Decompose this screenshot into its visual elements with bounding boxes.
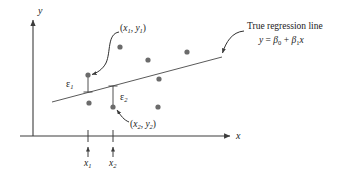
leader-curve-point1 <box>92 32 119 75</box>
data-point <box>155 104 160 109</box>
data-point <box>156 76 161 81</box>
regression-diagram: y x (x1, y1) (x2, y2) ε1 ε2 True regress… <box>0 0 341 171</box>
leader-curve-regression-caption <box>223 31 245 53</box>
x-tick-1-subscript: 1 <box>88 162 91 169</box>
x-tick-label-1: x1 <box>84 159 91 169</box>
point2-close-paren: ) <box>153 119 156 129</box>
residual-segment-epsilon-2 <box>109 86 118 107</box>
epsilon-2-label: ε2 <box>120 92 127 103</box>
data-point <box>184 49 189 54</box>
data-point <box>117 44 122 49</box>
equation-y: y <box>259 35 263 45</box>
equation-equals: = <box>266 35 271 45</box>
data-point <box>86 100 91 105</box>
epsilon-1-label: ε1 <box>66 79 73 90</box>
data-point <box>85 72 90 77</box>
data-points <box>85 44 189 109</box>
point1-close-paren: ) <box>143 23 146 33</box>
point-label-x2-y2: (x2, y2) <box>130 120 156 130</box>
x-tick-label-2: x2 <box>109 159 116 169</box>
equation-x: x <box>299 35 303 45</box>
x-tick-2-subscript: 2 <box>113 162 116 169</box>
x-axis-label: x <box>236 131 240 141</box>
data-point <box>110 104 115 109</box>
y-axis-label: y <box>38 6 42 16</box>
epsilon-1-subscript: 1 <box>70 83 73 90</box>
regression-caption-equation: y = β0 + β1x <box>259 36 304 46</box>
regression-caption-title: True regression line <box>247 22 323 32</box>
epsilon-2-subscript: 2 <box>124 96 127 103</box>
equation-beta0-subscript: 0 <box>278 39 281 46</box>
leader-curve-point2 <box>117 110 129 122</box>
true-regression-line <box>52 57 222 102</box>
equation-plus: + <box>284 35 289 45</box>
data-point <box>145 57 150 62</box>
point-label-x1-y1: (x1, y1) <box>120 24 146 34</box>
